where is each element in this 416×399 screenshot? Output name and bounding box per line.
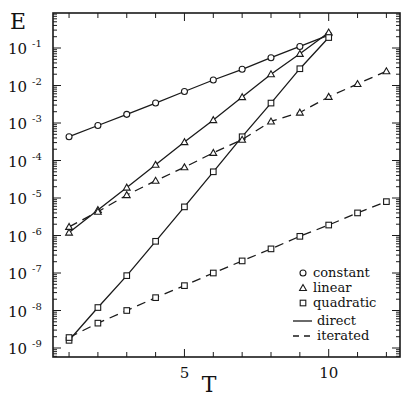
dashed-line — [69, 71, 386, 227]
triangle-legend-icon — [300, 285, 307, 291]
square-marker — [211, 169, 217, 175]
series-quadratic-direct — [66, 35, 331, 343]
y-tick-label: 10-6 — [8, 226, 42, 246]
triangle-marker — [152, 177, 159, 183]
square-marker — [297, 66, 303, 72]
square-marker — [124, 308, 130, 314]
square-marker — [95, 305, 101, 311]
triangle-marker — [325, 29, 332, 35]
y-tick-label: 10-4 — [8, 151, 42, 171]
legend-label: direct — [317, 313, 357, 328]
legend-label: constant — [313, 265, 370, 280]
square-legend-icon — [300, 300, 306, 306]
legend-label: iterated — [317, 328, 369, 343]
square-marker — [355, 210, 361, 216]
triangle-marker — [296, 109, 303, 115]
square-marker — [268, 246, 274, 252]
triangle-marker — [210, 149, 217, 155]
triangle-marker — [354, 81, 361, 87]
y-tick-label: 10-8 — [8, 301, 42, 321]
series-constant-direct — [66, 32, 332, 140]
legend-label: linear — [313, 280, 352, 295]
circle-marker — [210, 77, 216, 83]
square-marker — [182, 283, 188, 289]
square-marker — [95, 320, 101, 326]
solid-line — [69, 35, 329, 137]
circle-legend-icon — [300, 270, 306, 276]
square-marker — [124, 273, 130, 279]
y-tick-label: 10-5 — [8, 188, 42, 208]
square-marker — [297, 234, 303, 240]
circle-marker — [124, 111, 130, 117]
series-linear-direct — [66, 29, 332, 235]
x-tick-label: 5 — [180, 364, 190, 382]
plot-canvas: 10-110-210-310-410-510-610-710-810-9 510… — [0, 0, 416, 399]
square-marker — [384, 199, 390, 205]
solid-line — [69, 32, 329, 232]
square-marker — [66, 335, 72, 341]
y-tick-label: 10-1 — [8, 38, 42, 58]
y-tick-label: 10-3 — [8, 113, 42, 133]
circle-marker — [66, 134, 72, 140]
triangle-marker — [66, 223, 73, 229]
circle-marker — [181, 89, 187, 95]
triangle-marker — [268, 71, 275, 77]
square-marker — [326, 222, 332, 228]
solid-line — [69, 38, 329, 341]
y-tick-labels: 10-110-210-310-410-510-610-710-810-9 — [8, 38, 42, 358]
triangle-marker — [123, 192, 130, 198]
square-marker — [326, 35, 332, 41]
square-marker — [182, 204, 188, 210]
legend-label: quadratic — [313, 295, 376, 310]
circle-marker — [153, 100, 159, 106]
x-tick-label: 10 — [319, 364, 338, 382]
y-tick-label: 10-9 — [8, 338, 42, 358]
triangle-marker — [181, 164, 188, 170]
circle-marker — [95, 122, 101, 128]
circle-marker — [297, 43, 303, 49]
error-vs-T-chart: 10-110-210-310-410-510-610-710-810-9 510… — [0, 0, 416, 399]
square-marker — [268, 100, 274, 106]
y-tick-label: 10-2 — [8, 76, 42, 96]
x-axis-label: T — [202, 372, 217, 397]
y-tick-label: 10-7 — [8, 263, 42, 283]
circle-marker — [239, 66, 245, 72]
y-axis-label: E — [10, 9, 26, 34]
legend: constantlinearquadraticdirectiterated — [293, 265, 376, 343]
circle-marker — [268, 55, 274, 61]
square-marker — [153, 239, 159, 245]
square-marker — [153, 295, 159, 301]
square-marker — [211, 270, 217, 276]
series-linear-iterated — [66, 68, 390, 230]
square-marker — [239, 258, 245, 264]
triangle-marker — [383, 68, 390, 74]
